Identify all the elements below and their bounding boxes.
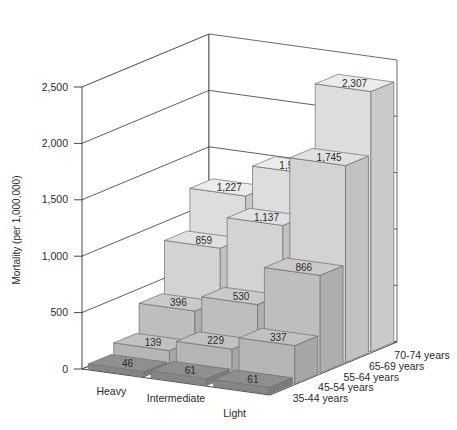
- y-tick-label: 2,500: [42, 81, 68, 93]
- bar-value-label: 229: [207, 335, 224, 346]
- bar-value-label: 866: [295, 262, 312, 273]
- mortality-3d-bar-chart: 05001,0001,5002,0002,500 1,2271,5012,307…: [0, 0, 457, 430]
- depth-label: 35-44 years: [293, 392, 348, 404]
- bar-value-label: 1,745: [317, 152, 342, 163]
- depth-label: 70-74 years: [394, 349, 449, 361]
- bar-value-label: 139: [145, 337, 162, 348]
- bar-side-face: [320, 266, 343, 373]
- bar-value-label: 530: [233, 291, 250, 302]
- depth-label: 65-69 years: [369, 360, 424, 372]
- depth-label: 55-64 years: [344, 371, 399, 383]
- bar-value-label: 61: [247, 374, 259, 385]
- y-tick-label: 2,000: [42, 137, 68, 149]
- bar-value-label: 46: [122, 358, 134, 369]
- y-axis-title: Mortality (per 1,000,000): [11, 176, 22, 285]
- category-label: Light: [223, 407, 246, 419]
- depth-label: 45-54 years: [318, 381, 373, 393]
- bar-value-label: 396: [170, 297, 187, 308]
- y-tick-label: 0: [62, 363, 68, 375]
- bar-value-label: 1,137: [254, 212, 279, 223]
- bar-side-face: [371, 82, 394, 352]
- bar-value-label: 1,227: [217, 182, 242, 193]
- bar-value-label: 859: [195, 235, 212, 246]
- bar-value-label: 2,307: [342, 78, 367, 89]
- bar-value-label: 61: [185, 365, 197, 376]
- y-tick-label: 500: [50, 306, 68, 318]
- bar-value-label: 337: [270, 332, 287, 343]
- category-label: Heavy: [96, 385, 127, 397]
- y-axis: 05001,0001,5002,0002,500: [42, 81, 82, 375]
- bar-side-face: [346, 156, 369, 362]
- y-tick-label: 1,000: [42, 250, 68, 262]
- x-axis-labels: HeavyIntermediateLight: [96, 385, 246, 418]
- y-tick-label: 1,500: [42, 193, 68, 205]
- category-label: Intermediate: [147, 392, 206, 404]
